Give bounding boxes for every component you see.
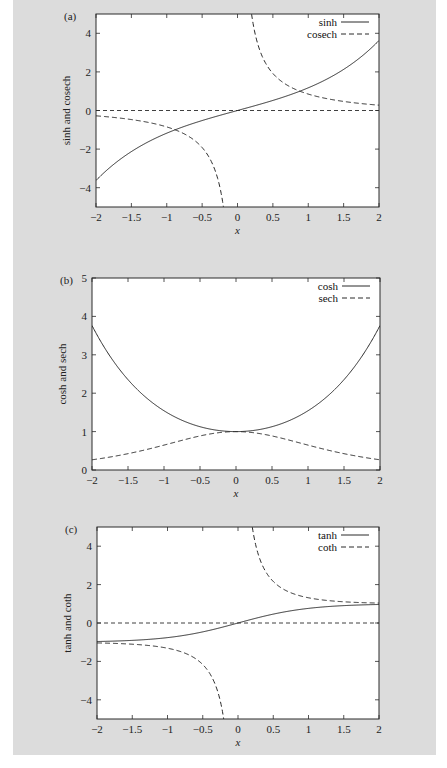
legend-label-cosh: cosh (318, 280, 339, 292)
x-tick-label: −2 (91, 723, 103, 735)
x-tick-label: −2 (86, 474, 98, 486)
legend-label-cosech: cosech (307, 28, 337, 40)
x-tick-label: 0.5 (266, 723, 280, 735)
x-tick-label: 0 (233, 474, 239, 486)
y-tick-label: −2 (80, 655, 92, 667)
chart-panel-c: −2−1.5−1−0.500.511.52−4−2024xtanh and co… (61, 489, 382, 758)
x-tick-label: 1 (306, 211, 312, 223)
legend-label-tanh: tanh (318, 529, 337, 541)
x-tick-label: 1.5 (337, 723, 351, 735)
y-tick-label: 0 (82, 464, 88, 476)
x-axis-label: x (233, 487, 239, 499)
legend-label-coth: coth (318, 541, 337, 553)
legend-label-sinh: sinh (319, 16, 338, 28)
x-tick-label: 0 (235, 723, 241, 735)
x-tick-label: 0 (235, 211, 241, 223)
x-tick-label: 1.5 (337, 474, 351, 486)
y-tick-label: −4 (80, 694, 92, 706)
x-tick-label: −1.5 (118, 474, 138, 486)
legend-label-sech: sech (318, 292, 338, 304)
x-tick-label: −0.5 (193, 723, 213, 735)
x-axis-label: x (234, 224, 240, 236)
y-tick-label: 0 (87, 617, 93, 629)
y-tick-label: 0 (86, 105, 92, 117)
x-tick-label: 0.5 (265, 474, 279, 486)
panel-tag: (b) (60, 274, 73, 287)
y-tick-label: 4 (87, 540, 93, 552)
x-tick-label: 1.5 (337, 211, 351, 223)
x-axis-label: x (235, 736, 241, 748)
figure: −2−1.5−1−0.500.511.52−4−2024xsinh and co… (0, 0, 447, 768)
x-tick-label: 1 (306, 723, 312, 735)
y-tick-label: −2 (79, 143, 91, 155)
panel-tag: (a) (64, 10, 77, 23)
chart-panel-a: −2−1.5−1−0.500.511.52−4−2024xsinh and co… (60, 0, 382, 246)
y-tick-label: 4 (82, 310, 88, 322)
plot-area (92, 278, 380, 470)
y-tick-label: 3 (82, 349, 88, 361)
y-tick-label: 2 (82, 387, 88, 399)
x-tick-label: −0.5 (192, 211, 212, 223)
y-tick-label: 2 (86, 66, 92, 78)
y-tick-label: 1 (82, 426, 88, 438)
y-axis-label: tanh and coth (61, 593, 73, 653)
x-tick-label: 0.5 (266, 211, 280, 223)
x-tick-label: −1 (161, 211, 173, 223)
y-axis-label: sinh and cosech (60, 75, 72, 145)
x-tick-label: −1 (158, 474, 170, 486)
x-tick-label: 2 (376, 211, 382, 223)
chart-panel-b: −2−1.5−1−0.500.511.52012345xcosh and sec… (56, 272, 383, 499)
x-tick-label: 2 (377, 474, 383, 486)
y-tick-label: −4 (79, 182, 91, 194)
x-tick-label: −2 (90, 211, 102, 223)
y-tick-label: 5 (82, 272, 88, 284)
panel-tag: (c) (65, 523, 78, 536)
x-tick-label: −1.5 (121, 211, 141, 223)
y-tick-label: 4 (86, 27, 92, 39)
y-axis-label: cosh and sech (56, 343, 68, 405)
x-tick-label: −0.5 (190, 474, 210, 486)
x-tick-label: 2 (376, 723, 382, 735)
x-tick-label: −1.5 (122, 723, 142, 735)
x-tick-label: 1 (305, 474, 311, 486)
y-tick-label: 2 (87, 579, 93, 591)
x-tick-label: −1 (162, 723, 174, 735)
